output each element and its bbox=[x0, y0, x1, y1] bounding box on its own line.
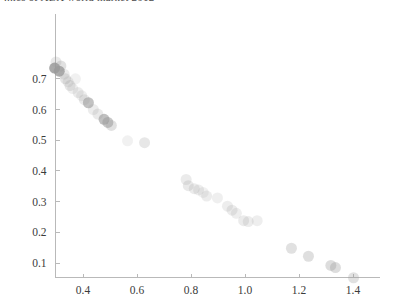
x-tick-label: 0.8 bbox=[184, 284, 199, 296]
y-tick-label: 0.6 bbox=[32, 104, 47, 116]
x-tick-label: 1.4 bbox=[346, 284, 361, 296]
x-tick-label: 0.4 bbox=[76, 284, 91, 296]
axes bbox=[56, 14, 381, 278]
y-tick-label: 0.1 bbox=[32, 257, 47, 269]
scatter-point bbox=[106, 120, 117, 131]
x-tick-label: 0.6 bbox=[130, 284, 145, 296]
y-tick-label: 0.3 bbox=[32, 196, 47, 208]
x-tick-label: 1.0 bbox=[238, 284, 253, 296]
y-axis-tick-labels: 0.10.20.30.40.50.60.7 bbox=[32, 73, 47, 269]
scatter-point bbox=[212, 192, 223, 203]
y-tick-label: 0.7 bbox=[32, 73, 47, 85]
x-tick-label: 1.2 bbox=[292, 284, 307, 296]
y-tick-label: 0.2 bbox=[32, 226, 47, 238]
scatter-point bbox=[70, 73, 81, 84]
scatter-point bbox=[252, 215, 263, 226]
scatter-point bbox=[348, 272, 359, 283]
scatter-point bbox=[139, 137, 150, 148]
y-tick-label: 0.5 bbox=[32, 134, 47, 146]
tick-marks bbox=[56, 79, 354, 278]
scatter-point bbox=[122, 135, 133, 146]
scatter-point bbox=[330, 262, 341, 273]
scatter-point bbox=[286, 243, 297, 254]
scatter-point bbox=[201, 191, 212, 202]
scatter-plot-figure: ...ics of ABX world market 2012 0.40.60.… bbox=[0, 0, 393, 308]
x-axis-tick-labels: 0.40.60.81.01.21.4 bbox=[76, 284, 361, 296]
plot-canvas: 0.40.60.81.01.21.4 0.10.20.30.40.50.60.7 bbox=[0, 0, 393, 308]
scatter-point bbox=[303, 251, 314, 262]
y-tick-label: 0.4 bbox=[32, 165, 47, 177]
data-points bbox=[49, 56, 359, 283]
